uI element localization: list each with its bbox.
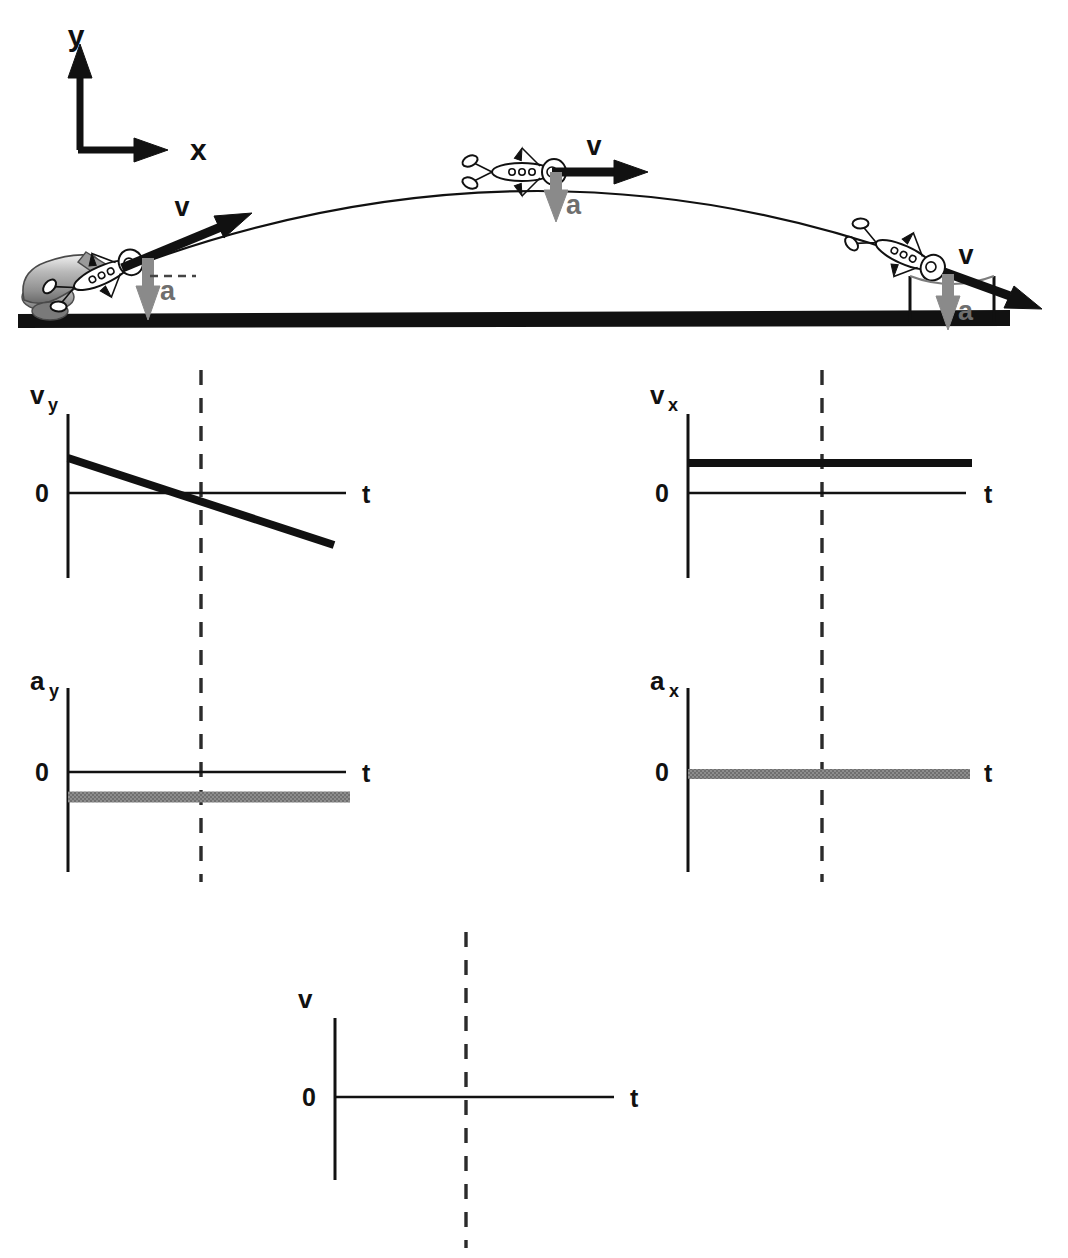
chart-v-y-label: v [298, 984, 313, 1014]
velocity-vector-apex: v [552, 131, 648, 184]
flyer-launch [36, 235, 152, 322]
chart-vy: v y 0 t [30, 370, 371, 882]
trajectory-path [118, 191, 952, 272]
chart-ax-y-label-sub: x [669, 681, 679, 701]
chart-ay-y-label: a [30, 666, 45, 696]
chart-ay-zero-label: 0 [35, 758, 49, 786]
ground-line [18, 310, 1010, 328]
acceleration-label-launch: a [160, 276, 176, 306]
chart-vx-y-label-sub: x [668, 395, 678, 415]
coordinate-axes-key: y x [68, 19, 207, 166]
chart-vy-zero-label: 0 [35, 479, 49, 507]
chart-vy-x-label: t [362, 480, 371, 508]
chart-vy-series-line [68, 458, 334, 545]
chart-ax-x-label: t [984, 759, 993, 787]
chart-vy-y-label-sub: y [48, 395, 58, 415]
axis-label-y: y [68, 19, 85, 52]
chart-vx: v x 0 t [650, 370, 993, 882]
chart-vx-y-label: v [650, 380, 665, 410]
chart-ax-y-label: a [650, 666, 665, 696]
velocity-label-apex: v [586, 131, 601, 161]
chart-ax: a x 0 t [650, 666, 993, 872]
chart-v-x-label: t [630, 1084, 639, 1112]
chart-vx-x-label: t [984, 480, 993, 508]
chart-ax-zero-label: 0 [655, 758, 669, 786]
chart-v: v 0 t [298, 932, 639, 1248]
acceleration-label-landing: a [958, 296, 974, 326]
flyer-landing [838, 208, 954, 295]
chart-ay-x-label: t [362, 759, 371, 787]
chart-v-zero-label: 0 [302, 1083, 316, 1111]
figure-canvas: y x [0, 0, 1068, 1258]
axis-label-x: x [190, 133, 207, 166]
chart-ay-y-label-sub: y [49, 681, 59, 701]
projectile-motion-figure: y x [0, 0, 1068, 1258]
chart-vx-zero-label: 0 [655, 479, 669, 507]
chart-vy-y-label: v [30, 380, 45, 410]
acceleration-label-apex: a [566, 190, 582, 220]
velocity-label-landing: v [958, 240, 973, 270]
velocity-vector-launch: v [122, 192, 252, 268]
velocity-label-launch: v [174, 192, 189, 222]
acceleration-vector-launch: a [136, 258, 196, 320]
